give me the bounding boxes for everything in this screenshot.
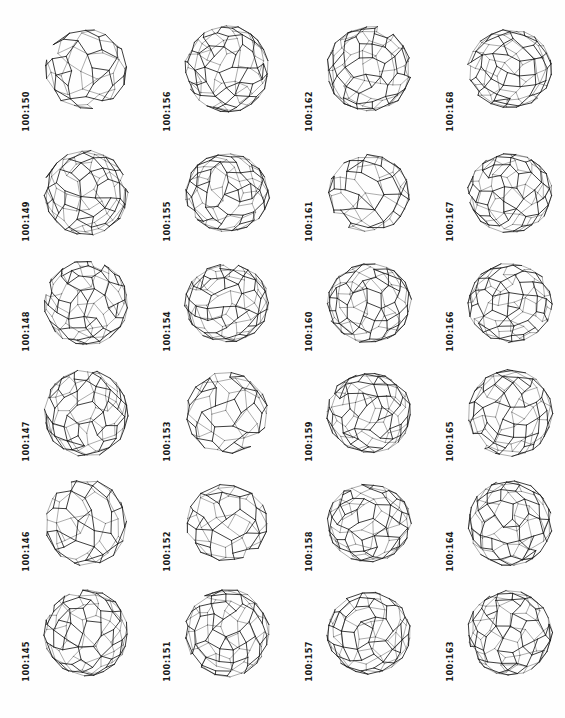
fullerene-cage-diagram xyxy=(458,251,562,355)
structure-label: 100:160 xyxy=(305,311,313,352)
fullerene-cage-diagram xyxy=(458,581,562,685)
structure-cell: 100:163 xyxy=(424,578,565,688)
figure-page: 100:150100:156100:162100:168100:149100:1… xyxy=(0,0,565,718)
structure-label: 100:161 xyxy=(305,201,313,242)
structure-cell: 100:154 xyxy=(141,248,282,358)
structure-label: 100:165 xyxy=(446,421,454,462)
structure-grid: 100:150100:156100:162100:168100:149100:1… xyxy=(0,0,565,718)
structure-label: 100:158 xyxy=(305,531,313,572)
fullerene-cage-diagram xyxy=(34,581,138,685)
structure-label: 100:156 xyxy=(163,91,171,132)
fullerene-cage-diagram xyxy=(317,251,421,355)
structure-cell: 100:156 xyxy=(141,0,282,138)
structure-label: 100:151 xyxy=(163,641,171,682)
structure-cell: 100:153 xyxy=(141,358,282,468)
structure-label: 100:153 xyxy=(163,421,171,462)
structure-label: 100:163 xyxy=(446,641,454,682)
structure-label: 100:162 xyxy=(305,91,313,132)
fullerene-cage-diagram xyxy=(317,471,421,575)
structure-label: 100:157 xyxy=(305,641,313,682)
fullerene-cage-diagram xyxy=(34,251,138,355)
fullerene-cage-diagram xyxy=(458,471,562,575)
structure-cell: 100:165 xyxy=(424,358,565,468)
structure-cell: 100:152 xyxy=(141,468,282,578)
structure-label: 100:149 xyxy=(22,201,30,242)
fullerene-cage-diagram xyxy=(317,141,421,245)
structure-cell: 100:164 xyxy=(424,468,565,578)
structure-label: 100:154 xyxy=(163,311,171,352)
structure-cell: 100:162 xyxy=(283,0,424,138)
structure-cell: 100:161 xyxy=(283,138,424,248)
fullerene-cage-diagram xyxy=(34,471,138,575)
page-bottom-margin xyxy=(0,688,565,718)
fullerene-cage-diagram xyxy=(458,141,562,245)
structure-cell: 100:167 xyxy=(424,138,565,248)
structure-cell: 100:149 xyxy=(0,138,141,248)
structure-label: 100:147 xyxy=(22,421,30,462)
fullerene-cage-diagram xyxy=(175,471,279,575)
fullerene-cage-diagram xyxy=(458,361,562,465)
structure-label: 100:167 xyxy=(446,201,454,242)
structure-cell: 100:155 xyxy=(141,138,282,248)
fullerene-cage-diagram xyxy=(317,581,421,685)
structure-cell: 100:168 xyxy=(424,0,565,138)
structure-cell: 100:145 xyxy=(0,578,141,688)
structure-label: 100:166 xyxy=(446,311,454,352)
structure-cell: 100:158 xyxy=(283,468,424,578)
structure-cell: 100:146 xyxy=(0,468,141,578)
structure-cell: 100:150 xyxy=(0,0,141,138)
structure-cell: 100:151 xyxy=(141,578,282,688)
structure-cell: 100:157 xyxy=(283,578,424,688)
structure-cell: 100:148 xyxy=(0,248,141,358)
fullerene-cage-diagram xyxy=(34,361,138,465)
structure-cell: 100:147 xyxy=(0,358,141,468)
structure-cell: 100:160 xyxy=(283,248,424,358)
structure-label: 100:145 xyxy=(22,641,30,682)
structure-label: 100:146 xyxy=(22,531,30,572)
fullerene-cage-diagram xyxy=(175,581,279,685)
structure-cell: 100:166 xyxy=(424,248,565,358)
fullerene-cage-diagram xyxy=(34,17,138,121)
structure-label: 100:150 xyxy=(22,91,30,132)
structure-label: 100:168 xyxy=(446,91,454,132)
fullerene-cage-diagram xyxy=(175,141,279,245)
fullerene-cage-diagram xyxy=(175,251,279,355)
fullerene-cage-diagram xyxy=(317,17,421,121)
fullerene-cage-diagram xyxy=(175,361,279,465)
structure-label: 100:148 xyxy=(22,311,30,352)
structure-label: 100:152 xyxy=(163,531,171,572)
structure-label: 100:164 xyxy=(446,531,454,572)
structure-cell: 100:159 xyxy=(283,358,424,468)
structure-label: 100:159 xyxy=(305,421,313,462)
fullerene-cage-diagram xyxy=(317,361,421,465)
fullerene-cage-diagram xyxy=(34,141,138,245)
structure-label: 100:155 xyxy=(163,201,171,242)
fullerene-cage-diagram xyxy=(175,17,279,121)
fullerene-cage-diagram xyxy=(458,17,562,121)
